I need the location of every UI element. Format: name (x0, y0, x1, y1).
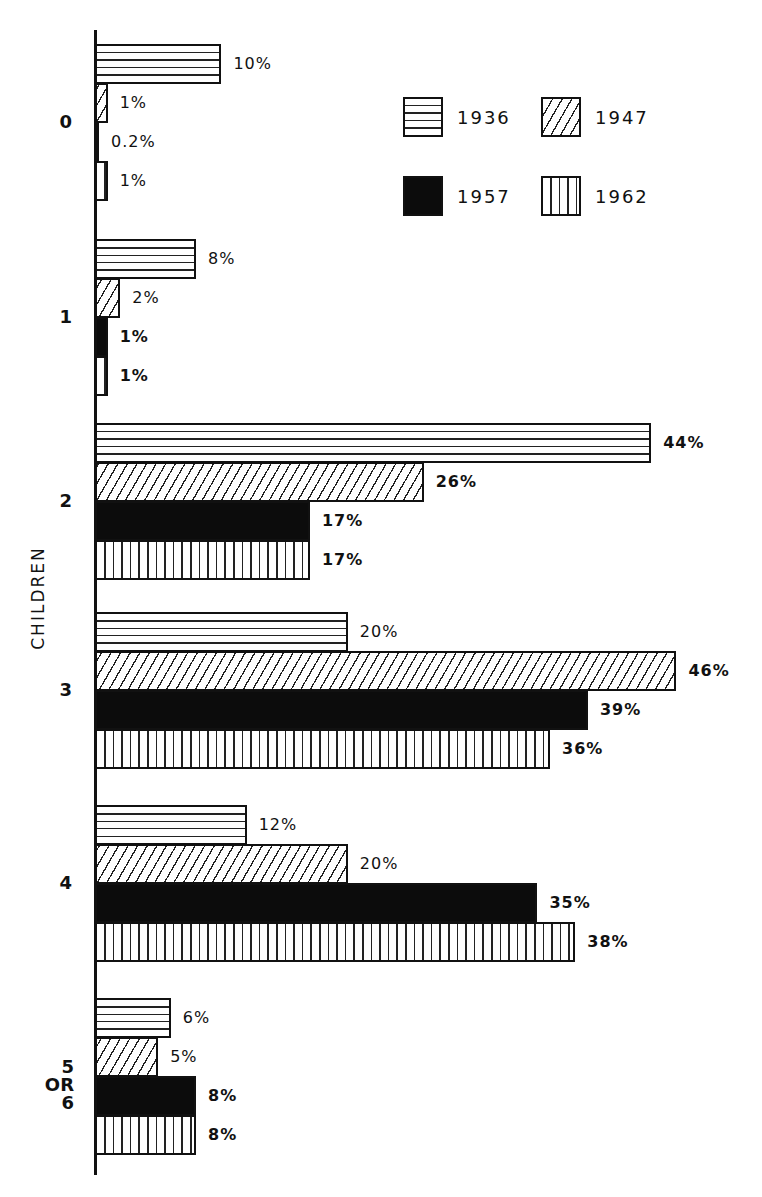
bar-1947-children-3 (95, 651, 676, 691)
bar-1957-children-2 (95, 501, 310, 541)
bar-1962-children-5-or-6 (95, 1115, 196, 1155)
bar-1936-children-2 (95, 423, 651, 463)
legend-label: 1947 (595, 107, 649, 128)
bar-1962-children-2 (95, 540, 310, 580)
value-label: 1% (120, 171, 147, 191)
value-label: 36% (562, 739, 603, 759)
bar-1957-children-1 (95, 317, 108, 357)
value-label: 38% (587, 932, 628, 952)
value-label: 17% (322, 511, 363, 531)
bar-1957-children-0 (95, 122, 99, 162)
legend-item-1957: 1957 (403, 176, 511, 216)
pattern-swatch-icon (541, 176, 581, 216)
value-label: 44% (663, 433, 704, 453)
value-label: 35% (549, 893, 590, 913)
legend-item-1947: 1947 (541, 97, 649, 137)
bar-1936-children-5-or-6 (95, 998, 171, 1038)
value-label: 46% (688, 661, 729, 681)
bar-1962-children-0 (95, 161, 108, 201)
bar-1936-children-3 (95, 612, 348, 652)
value-label: 17% (322, 550, 363, 570)
value-label: 39% (600, 700, 641, 720)
category-label: 0 (42, 112, 72, 132)
value-label: 8% (208, 1086, 237, 1106)
value-label: 26% (436, 472, 477, 492)
bar-1962-children-4 (95, 922, 575, 962)
bar-1957-children-5-or-6 (95, 1076, 196, 1116)
bar-1957-children-4 (95, 883, 537, 923)
value-label: 8% (208, 1125, 237, 1145)
value-label: 8% (208, 249, 235, 269)
value-label: 1% (120, 366, 149, 386)
bar-1962-children-3 (95, 729, 550, 769)
value-label: 2% (132, 288, 159, 308)
legend-item-1962: 1962 (541, 176, 649, 216)
value-label: 10% (233, 54, 272, 74)
bar-1947-children-4 (95, 844, 348, 884)
value-label: 1% (120, 327, 149, 347)
value-label: 1% (120, 93, 147, 113)
legend-item-1936: 1936 (403, 97, 511, 137)
value-label: 0.2% (111, 132, 156, 152)
value-label: 6% (183, 1008, 210, 1028)
bar-1947-children-5-or-6 (95, 1037, 158, 1077)
legend-label: 1962 (595, 186, 649, 207)
category-label: 2 (42, 491, 72, 511)
pattern-swatch-icon (403, 176, 443, 216)
bar-1947-children-0 (95, 83, 108, 123)
category-label: 5OR6 (44, 1058, 74, 1112)
bar-1957-children-3 (95, 690, 588, 730)
bar-1962-children-1 (95, 356, 108, 396)
legend-label: 1936 (457, 107, 511, 128)
bar-1936-children-1 (95, 239, 196, 279)
legend-label: 1957 (457, 186, 511, 207)
y-axis-label: CHILDREN (28, 546, 48, 650)
category-label: 4 (42, 873, 72, 893)
bar-1936-children-4 (95, 805, 247, 845)
value-label: 5% (170, 1047, 197, 1067)
bar-1947-children-1 (95, 278, 120, 318)
bar-chart: CHILDREN 1936 1947 1957 1962 010%1%0.2%1… (0, 0, 762, 1197)
category-label: 1 (42, 307, 72, 327)
value-label: 20% (360, 622, 399, 642)
value-label: 20% (360, 854, 399, 874)
value-label: 12% (259, 815, 298, 835)
pattern-swatch-icon (403, 97, 443, 137)
pattern-swatch-icon (541, 97, 581, 137)
bar-1936-children-0 (95, 44, 221, 84)
category-label: 3 (42, 680, 72, 700)
bar-1947-children-2 (95, 462, 424, 502)
